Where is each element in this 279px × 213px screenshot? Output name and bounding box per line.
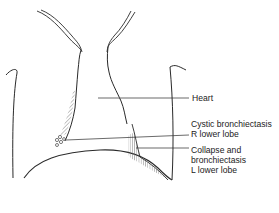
left-chest-wall-lower	[170, 67, 173, 180]
collapse-label-line-2: bronchiectasis	[191, 155, 246, 165]
diagram: Heart Cystic bronchiectasis R lower lobe…	[0, 0, 279, 213]
collapse-label-line-3: L lower lobe	[191, 165, 246, 175]
right-clavicle-outer	[37, 11, 81, 50]
collapse-bronchiectasis-label: Collapse and bronchiectasis L lower lobe	[191, 145, 246, 175]
heart-label-text: Heart	[192, 93, 213, 103]
cystic-leader-line	[66, 135, 189, 140]
cystic-bronchiectasis-label: Cystic bronchiectasis R lower lobe	[191, 119, 272, 139]
left-heart-border	[107, 47, 127, 124]
left-clavicle-outer	[108, 12, 135, 47]
cystic-rings	[55, 135, 65, 146]
cystic-label-line-1: Cystic bronchiectasis	[191, 119, 272, 129]
left-chest-wall	[170, 66, 186, 70]
collapse-label-line-1: Collapse and	[191, 145, 246, 155]
cystic-label-line-2: R lower lobe	[191, 129, 272, 139]
chest-outline-drawing	[0, 0, 279, 213]
left-clavicle-inner	[107, 11, 131, 52]
heart-label: Heart	[192, 93, 213, 103]
right-chest-wall	[6, 69, 17, 178]
right-lower-lobe-shading	[60, 90, 75, 136]
left-lower-lobe-shading	[128, 133, 166, 178]
